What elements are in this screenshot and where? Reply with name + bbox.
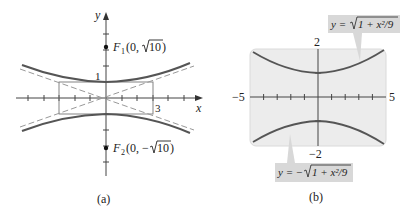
svg-text:y = −: y = −: [277, 166, 303, 178]
ymin-label: −2: [309, 147, 322, 161]
upper-equation-label: y = 1 + x²/9: [330, 17, 398, 30]
svg-text:1: 1: [121, 47, 125, 56]
tick-label-3: 3: [155, 102, 161, 114]
svg-text:1 + x²/9: 1 + x²/9: [358, 18, 394, 30]
xmin-label: −5: [232, 90, 245, 104]
svg-text:(0, −: (0, −: [126, 141, 149, 155]
svg-text:10: 10: [157, 141, 169, 155]
figure: y x 1 3 F 1 (0, 10 ) F 2 (0, − 10 ) (a): [0, 0, 413, 216]
svg-text:10: 10: [149, 40, 161, 54]
panel-a: y x 1 3 F 1 (0, 10 ) F 2 (0, − 10 ) (a): [16, 8, 203, 206]
caption-a: (a): [97, 192, 110, 206]
x-axis-label: x: [195, 101, 202, 115]
y-axis-arrow-icon: [103, 12, 109, 20]
svg-text:(0,: (0,: [126, 40, 139, 54]
focus-2-point: [104, 146, 108, 150]
focus-2-label: F 2 (0, − 10 ): [112, 141, 174, 157]
svg-text:1 + x²/9: 1 + x²/9: [312, 166, 348, 178]
xmax-label: 5: [389, 90, 395, 104]
tick-label-1: 1: [95, 70, 101, 82]
ymax-label: 2: [314, 35, 320, 49]
svg-text:y =: y =: [330, 18, 346, 30]
focus-1-label: F 1 (0, 10 ): [112, 40, 166, 56]
focus-1-point: [104, 45, 108, 49]
y-axis-label: y: [94, 8, 101, 22]
caption-b: (b): [309, 190, 323, 204]
svg-text:F: F: [112, 141, 121, 155]
svg-text:): ): [162, 40, 166, 54]
lower-equation-label: y = − 1 + x²/9: [277, 165, 351, 178]
svg-text:2: 2: [121, 148, 125, 157]
svg-text:F: F: [112, 40, 121, 54]
svg-text:): ): [170, 141, 174, 155]
panel-b: −5 5 2 −2 y = 1 + x²/9 y = − 1 + x²/9 (b…: [232, 15, 400, 204]
